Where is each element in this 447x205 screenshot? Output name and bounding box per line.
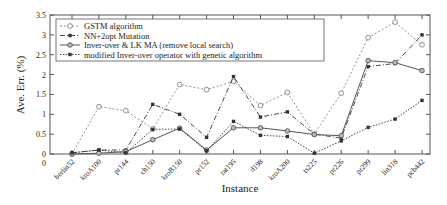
- series-line: [72, 61, 422, 154]
- x-tick-label: pr299: [354, 157, 373, 176]
- marker-square: [124, 151, 127, 154]
- x-tick-label: kroA200: [267, 157, 292, 182]
- x-origin-label: 0: [42, 159, 46, 168]
- marker-square: [205, 149, 208, 152]
- marker-square: [151, 103, 154, 106]
- marker-square: [232, 75, 235, 78]
- x-tick-label: kroB150: [159, 157, 184, 182]
- x-tick-label: ts225: [301, 157, 319, 175]
- y-tick-label: 3.5: [36, 11, 46, 20]
- x-tick-label: rat195: [218, 157, 238, 177]
- y-tick-label: 0: [42, 150, 46, 159]
- marker-square: [151, 128, 154, 131]
- marker-square: [313, 152, 316, 155]
- marker-circle: [258, 125, 263, 130]
- marker-circle: [285, 129, 290, 134]
- marker-square: [97, 148, 100, 151]
- legend-label: NN+2opt Mutation: [84, 31, 150, 41]
- legend: GSTM algorithmNN+2opt MutationInver-over…: [56, 19, 324, 61]
- x-tick-label: lin318: [380, 157, 400, 177]
- marker-square: [420, 33, 423, 36]
- x-tick-label: berlin52: [52, 157, 76, 181]
- marker-square: [259, 115, 262, 118]
- x-tick-label: pr144: [112, 157, 131, 176]
- legend-label: GSTM algorithm: [84, 21, 143, 31]
- marker-open-circle: [366, 35, 371, 40]
- marker-square: [340, 139, 343, 142]
- marker-square: [232, 120, 235, 123]
- series-4: [70, 99, 423, 155]
- marker-square: [70, 151, 73, 154]
- y-tick-label: 2: [42, 71, 46, 80]
- marker-square: [205, 136, 208, 139]
- marker-open-circle: [420, 42, 425, 47]
- marker-open-circle: [123, 108, 128, 113]
- x-axis-label: Instance: [222, 182, 259, 194]
- marker-square: [178, 113, 181, 116]
- y-tick-label: 1.5: [36, 90, 46, 99]
- marker-circle: [393, 60, 398, 65]
- marker-circle: [366, 58, 371, 63]
- marker-square: [393, 117, 396, 120]
- y-tick-label: 1: [42, 110, 46, 119]
- marker-open-circle: [285, 90, 290, 95]
- marker-square: [68, 34, 71, 37]
- marker-circle: [312, 132, 317, 137]
- x-tick-label: d198: [248, 157, 265, 174]
- marker-open-circle: [339, 91, 344, 96]
- marker-circle: [68, 43, 73, 48]
- marker-square: [259, 134, 262, 137]
- marker-open-circle: [393, 20, 398, 25]
- marker-open-circle: [68, 24, 73, 29]
- y-tick-label: 2.5: [36, 51, 46, 60]
- marker-open-circle: [97, 104, 102, 109]
- x-tick-label: pcb442: [404, 157, 426, 179]
- series-3: [70, 58, 425, 156]
- marker-square: [286, 135, 289, 138]
- marker-square: [420, 99, 423, 102]
- marker-open-circle: [258, 103, 263, 108]
- marker-circle: [150, 137, 155, 142]
- x-tick-label: pr226: [327, 157, 346, 176]
- marker-square: [286, 110, 289, 113]
- marker-circle: [339, 133, 344, 138]
- y-axis-label: Ave. Err. (%): [14, 55, 27, 114]
- legend-label: Inver-over & LK MA (remove local search): [84, 40, 233, 50]
- y-tick-label: 3: [42, 31, 46, 40]
- x-tick-label: pr152: [192, 157, 211, 176]
- marker-open-circle: [177, 82, 182, 87]
- legend-label: modified Inver-over operator with geneti…: [84, 50, 262, 60]
- marker-circle: [231, 125, 236, 130]
- marker-open-circle: [204, 87, 209, 92]
- marker-circle: [420, 68, 425, 73]
- marker-square: [178, 127, 181, 130]
- y-tick-label: 0.5: [36, 130, 46, 139]
- x-tick-label: ch150: [138, 157, 158, 177]
- line-chart: 00.511.522.533.50berlin52kroA100pr144ch1…: [0, 0, 447, 205]
- x-tick-label: kroA100: [78, 157, 103, 182]
- marker-square: [366, 126, 369, 129]
- marker-square: [68, 53, 71, 56]
